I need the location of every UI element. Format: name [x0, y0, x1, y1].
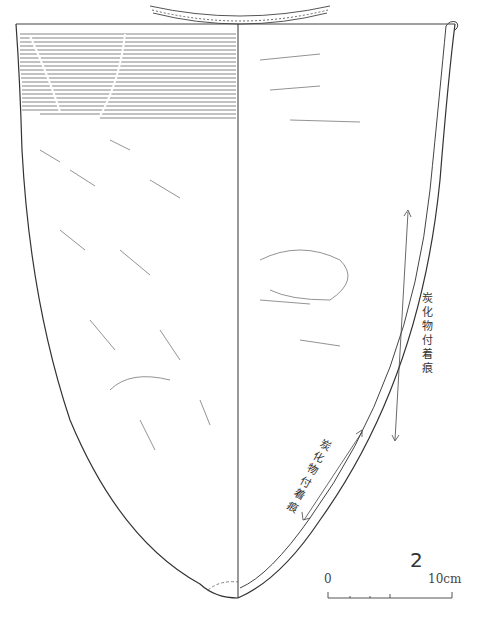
scale-start-label: 0 [324, 572, 332, 586]
pottery-drawing [0, 0, 483, 626]
figure-number: 2 [410, 548, 423, 572]
annotation-carbonized-deposit-upper: 炭化物付着痕 [420, 292, 433, 376]
scale-end-label: 10cm [428, 572, 461, 586]
